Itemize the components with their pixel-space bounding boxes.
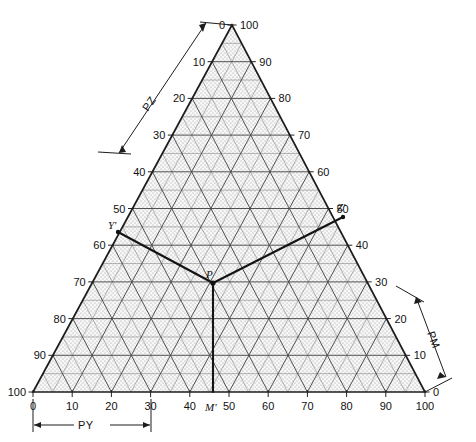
axis-tick-label: 70 [301,400,313,412]
ternary-diagram-figure: 0102030405060708090100100908070605040302… [0,0,476,442]
axis-tick-label: 10 [414,349,426,361]
axis-tick-label: 20 [173,92,185,104]
axis-tick-label: 100 [8,386,26,398]
dimension-label-pz: PZ [140,94,158,113]
pz-tick-lower [98,152,131,154]
axis-tick-label: 90 [34,349,46,361]
axis-tick-label: 0 [219,19,225,31]
axis-tick-label: 100 [416,400,434,412]
axis-tick-label: 80 [279,92,291,104]
point-label-m-prime: M' [204,401,217,413]
axis-tick-label: 10 [66,400,78,412]
axis-tick-label: 20 [105,400,117,412]
pz-arrow-upper [199,23,206,32]
py-arrow-right [143,422,150,428]
dimension-label-py: PY [78,419,94,431]
axis-tick-label: 50 [223,400,235,412]
axis-tick-label: 30 [153,129,165,141]
pm-tick-upper [396,286,424,302]
axis-tick-label: 90 [259,56,271,68]
py-arrow-left [34,422,41,428]
diagram-canvas: 0102030405060708090100100908070605040302… [0,0,476,442]
axis-tick-label: 80 [340,400,352,412]
point-label-z-prime: Z' [337,201,346,213]
marker-z-prime [341,215,345,219]
axis-tick-label: 50 [113,203,125,215]
axis-tick-label: 100 [240,19,258,31]
pz-arrow-lower [119,145,126,153]
dimension-label-pm: PM [425,329,442,350]
axis-tick-label: 90 [380,400,392,412]
point-label-y-prime: Y' [108,219,117,231]
axis-tick-label: 40 [184,400,196,412]
axis-tick-label: 60 [317,166,329,178]
axis-tick-label: 40 [356,239,368,251]
axis-tick-label: 80 [54,313,66,325]
point-label-p: P [205,268,213,280]
axis-tick-label: 40 [133,166,145,178]
axis-tick-label: 60 [262,400,274,412]
axis-tick-label: 10 [193,56,205,68]
axis-tick-label: 70 [298,129,310,141]
marker-p [210,280,215,285]
axis-tick-label: 60 [93,239,105,251]
axis-tick-label: 20 [394,313,406,325]
axis-tick-label: 30 [375,276,387,288]
axis-tick-label: 70 [73,276,85,288]
